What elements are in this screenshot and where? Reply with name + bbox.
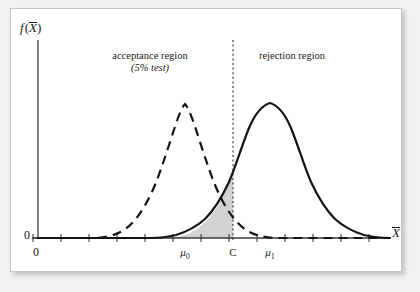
acceptance-region-title: acceptance region	[112, 50, 188, 61]
acceptance-region-subtitle: (5% test)	[131, 62, 169, 73]
y-axis-origin-label: 0	[24, 229, 30, 243]
y-axis-label: f (X)	[20, 21, 41, 36]
x-axis-origin-label: 0	[33, 246, 39, 260]
tick-label-critical-value: C	[218, 246, 248, 259]
figure-page: f (X) X 0 0 acceptance region (5% test) …	[0, 0, 420, 292]
rejection-region-label: rejection region	[246, 50, 338, 62]
x-axis-label: X	[392, 226, 400, 241]
tick-label-mu0: μ0	[170, 246, 200, 261]
hypothesis-test-plot	[0, 0, 420, 292]
tick-label-mu1: μ1	[255, 246, 285, 261]
shaded-type-ii-region	[163, 172, 233, 238]
acceptance-region-label: acceptance region (5% test)	[90, 50, 210, 74]
